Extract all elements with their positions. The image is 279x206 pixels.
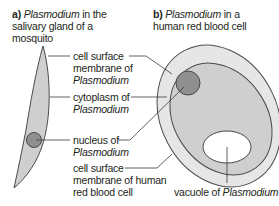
sporozoite-cell [14, 46, 49, 188]
label-rbc-membrane-line3: red blood cell [73, 186, 133, 198]
label-nucleus: nucleus of [73, 134, 119, 146]
plasmodium-diagram: a) Plasmodium in the salivary gland of a… [0, 0, 279, 206]
label-cytoplasm-line2: Plasmodium [73, 103, 129, 115]
panel-a-title-line3: mosquito [12, 32, 53, 44]
label-nucleus-line2: Plasmodium [73, 146, 129, 158]
panel-b-title-line2: human red blood cell [153, 20, 246, 32]
label-plasmodium-membrane: cell surface [73, 50, 124, 62]
label-rbc-membrane-line2: membrane of human [73, 174, 166, 186]
label-rbc-membrane: cell surface [73, 162, 124, 174]
panel-a-title: a) Plasmodium in the [12, 8, 107, 20]
label-plasmodium-membrane-line3: Plasmodium [73, 74, 129, 86]
label-plasmodium-membrane-line2: membrane of [73, 62, 133, 74]
panel-b-title: b) Plasmodium in a [153, 8, 240, 20]
panel-a-title-line2: salivary gland of a [12, 20, 93, 32]
label-vacuole: vacuole of Plasmodium [174, 186, 278, 198]
label-cytoplasm: cytoplasm of [73, 91, 130, 103]
